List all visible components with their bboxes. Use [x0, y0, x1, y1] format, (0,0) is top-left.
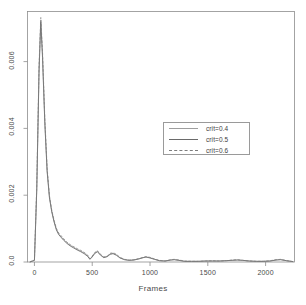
legend-label: crit=0.5 [206, 136, 228, 143]
x-tick-label: 0 [14, 269, 54, 276]
x-axis-title: Frames [0, 284, 306, 293]
legend-line-sample [167, 145, 200, 156]
density-chart: 0.00.0020.0040.006 0500100015002000 Fram… [0, 0, 306, 305]
legend-item: crit=0.6 [164, 145, 249, 156]
legend-line-sample [167, 123, 200, 134]
series-line-crit-0-6 [30, 18, 294, 262]
x-tick-label: 1000 [130, 269, 170, 276]
series-line-crit-0-4 [30, 20, 294, 262]
plot-border [28, 12, 295, 263]
plot-canvas [0, 0, 306, 305]
legend-label: crit=0.4 [206, 125, 228, 132]
series-lines [30, 18, 294, 262]
legend-line-sample [167, 134, 200, 145]
series-line-crit-0-5 [30, 22, 294, 262]
x-tick-label: 1500 [188, 269, 228, 276]
y-tick-label: 0.002 [8, 183, 15, 205]
y-tick-label: 0.006 [8, 49, 15, 71]
x-tick-label: 2000 [246, 269, 286, 276]
plot-frame [28, 12, 295, 263]
x-tick-label: 500 [72, 269, 112, 276]
x-axis-ticks [34, 262, 265, 266]
legend-label: crit=0.6 [206, 147, 228, 154]
y-axis-ticks [24, 62, 28, 262]
y-tick-label: 0.004 [8, 116, 15, 138]
legend: crit=0.4crit=0.5crit=0.6 [163, 122, 250, 155]
legend-item: crit=0.5 [164, 134, 249, 145]
legend-item: crit=0.4 [164, 123, 249, 134]
